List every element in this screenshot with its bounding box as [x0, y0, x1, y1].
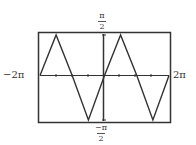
y-max-denominator: 2: [99, 23, 104, 31]
y-min-denominator: 2: [98, 135, 103, 143]
y-max-label: π 2: [98, 12, 106, 31]
x-max-label: 2π: [173, 70, 186, 80]
y-min-numerator: −π: [95, 124, 107, 132]
y-max-numerator: π: [99, 12, 104, 20]
x-min-label: −2π: [3, 70, 24, 80]
triangle-wave-curve: [40, 35, 169, 120]
y-min-label: −π 2: [95, 124, 107, 143]
